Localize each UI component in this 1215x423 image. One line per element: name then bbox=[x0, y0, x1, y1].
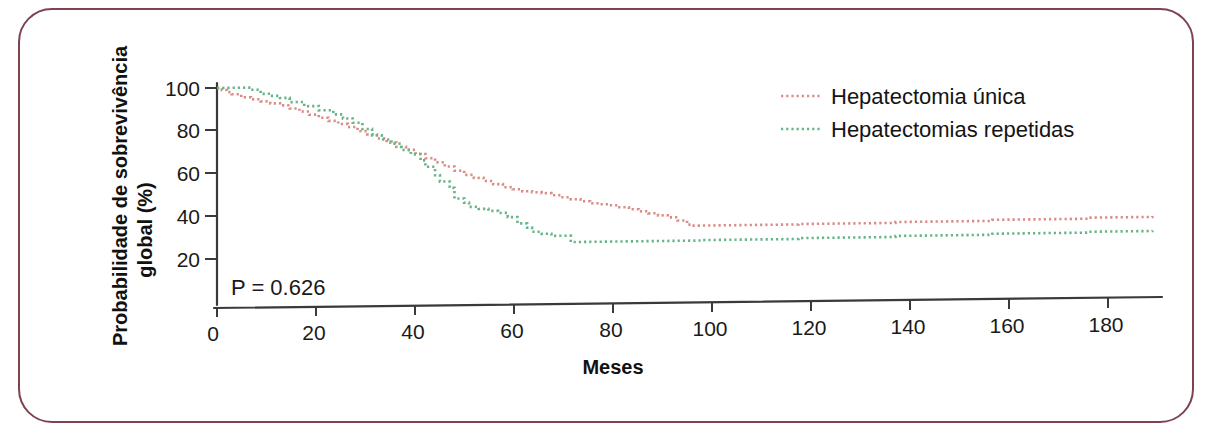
x-axis-line bbox=[214, 297, 1162, 308]
y-tick-label-60: 60 bbox=[177, 162, 200, 185]
y-axis-title: Probabilidade de sobrevivência global (%… bbox=[109, 45, 156, 346]
x-tick-label-80: 80 bbox=[599, 318, 622, 341]
legend-label-hepatectomia-unica: Hepatectomia única bbox=[831, 84, 1026, 109]
y-tick-label-100: 100 bbox=[165, 77, 200, 100]
x-axis-title: Meses bbox=[582, 356, 643, 378]
x-tick-label-120: 120 bbox=[791, 316, 826, 339]
x-tick-label-60: 60 bbox=[500, 319, 523, 342]
x-tick-label-100: 100 bbox=[692, 317, 727, 340]
p-value-annotation: P = 0.626 bbox=[231, 275, 325, 300]
chart-legend: Hepatectomia única Hepatectomias repetid… bbox=[781, 84, 1074, 142]
y-tick-label-20: 20 bbox=[177, 248, 200, 271]
y-tick-label-40: 40 bbox=[177, 205, 200, 228]
y-tick-label-80: 80 bbox=[177, 119, 200, 142]
y-axis-tick-labels: 100 80 60 40 20 bbox=[165, 77, 200, 271]
y-axis-title-line2: global (%) bbox=[134, 182, 156, 278]
x-tick-label-40: 40 bbox=[401, 320, 424, 343]
x-tick-label-160: 160 bbox=[989, 314, 1024, 337]
legend-label-hepatectomias-repetidas: Hepatectomias repetidas bbox=[831, 117, 1074, 142]
x-axis-tick-labels: 0 20 40 60 80 100 120 140 160 180 bbox=[207, 313, 1123, 345]
x-tick-label-0: 0 bbox=[207, 322, 219, 345]
y-axis-title-line1: Probabilidade de sobrevivência bbox=[109, 45, 131, 346]
x-tick-label-180: 180 bbox=[1088, 313, 1123, 336]
x-tick-label-140: 140 bbox=[890, 315, 925, 338]
survival-curve-hepatectomias-repetidas bbox=[217, 88, 1152, 242]
x-tick-label-20: 20 bbox=[302, 321, 325, 344]
y-axis-ticks bbox=[205, 88, 217, 259]
